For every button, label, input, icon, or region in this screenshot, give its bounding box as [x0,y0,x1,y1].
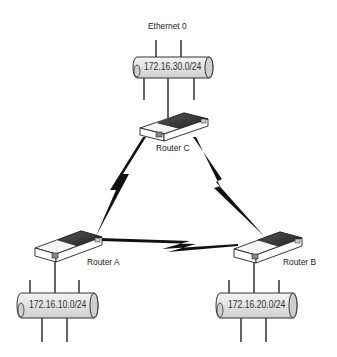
lightning-bolt-icon [193,137,264,236]
serial-link-a-b [100,238,238,252]
lightning-bolt-icon [100,238,238,252]
router-port-icon [252,254,258,259]
router-b-label: Router B [283,256,316,267]
lightning-bolt-icon [96,137,146,236]
subnet-label-c: 172.16.30.0/24 [144,61,201,72]
subnet-label-b: 172.16.20.0/24 [228,299,285,310]
serial-link-c-b [193,137,264,236]
router-c-label: Router C [156,142,189,153]
pipe-end-cap [18,303,24,317]
pipe-end-cap [134,65,140,77]
pipe-end-cap [217,303,223,317]
router-c[interactable] [140,113,208,141]
ethernet-segment-c [133,40,213,118]
router-port-icon [156,132,162,137]
serial-link-c-a [96,137,146,236]
router-port-icon [95,238,100,242]
subnet-label-a: 172.16.10.0/24 [29,299,86,310]
router-port-icon [52,253,58,258]
ethernet-interface-label: Ethernet 0 [148,20,187,31]
pipe-end-cap [289,293,297,318]
router-port-icon [295,239,300,243]
pipe-end-cap [205,57,213,78]
pipe-end-cap [90,293,98,318]
router-a-label: Router A [87,256,120,267]
router-port-icon [201,119,206,123]
